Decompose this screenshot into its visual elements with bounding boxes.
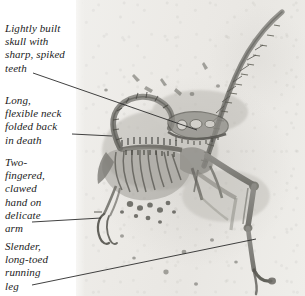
caption-leg-line-2: long-toed bbox=[5, 253, 77, 266]
gastralia bbox=[120, 201, 176, 224]
caption-leg: Slender, long-toed running leg bbox=[5, 240, 77, 293]
caption-skull-line-1: Lightly built bbox=[5, 22, 77, 35]
caption-neck-line-3: folded back bbox=[5, 120, 77, 133]
caption-skull-line-2: skull with bbox=[5, 35, 77, 48]
caption-leg-line-4: leg bbox=[5, 280, 77, 293]
caption-skull-line-3: sharp, spiked bbox=[5, 48, 77, 61]
caption-hand-line-3: clawed bbox=[5, 182, 77, 195]
caption-neck-line-1: Long, bbox=[5, 94, 77, 107]
caption-leg-line-3: running bbox=[5, 266, 77, 279]
caption-neck-line-4: in death bbox=[5, 134, 77, 147]
forelimb bbox=[94, 186, 120, 244]
skeleton-bones bbox=[94, 12, 282, 294]
caption-hand-line-6: arm bbox=[5, 222, 77, 235]
caption-skull: Lightly built skull with sharp, spiked t… bbox=[5, 22, 77, 75]
caption-hand-line-4: hand on bbox=[5, 196, 77, 209]
caption-neck-line-2: flexible neck bbox=[5, 107, 77, 120]
annotated-fossil-figure: Lightly built skull with sharp, spiked t… bbox=[0, 0, 305, 296]
caption-skull-line-4: teeth bbox=[5, 62, 77, 75]
tail bbox=[201, 12, 282, 166]
caption-hand-line-5: delicate bbox=[5, 209, 77, 222]
fossil-skeleton-drawing bbox=[76, 0, 305, 296]
caption-hand-line-2: fingered, bbox=[5, 169, 77, 182]
caption-hand: Two- fingered, clawed hand on delicate a… bbox=[5, 156, 77, 235]
caption-leg-line-1: Slender, bbox=[5, 240, 77, 253]
caption-neck: Long, flexible neck folded back in death bbox=[5, 94, 77, 147]
caption-hand-line-1: Two- bbox=[5, 156, 77, 169]
fossil-photograph-plate bbox=[76, 0, 305, 296]
